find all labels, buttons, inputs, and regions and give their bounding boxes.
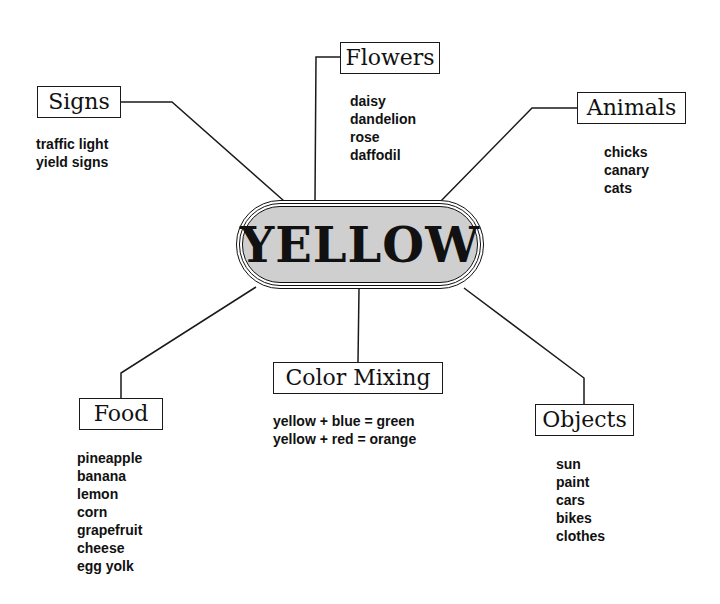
list-item: corn [77,503,142,521]
branch-flowers-title: Flowers [340,42,440,74]
branch-flowers-items: daisy dandelion rose daffodil [350,92,416,164]
list-item: yield signs [36,153,108,171]
list-item: banana [77,467,142,485]
list-item: cats [604,179,649,197]
list-item: pineapple [77,449,142,467]
list-item: dandelion [350,110,416,128]
list-item: grapefruit [77,521,142,539]
list-item: egg yolk [77,557,142,575]
center-label: YELLOW [240,217,480,273]
branch-food-items: pineapple banana lemon corn grapefruit c… [77,449,142,575]
list-item: canary [604,161,649,179]
list-item: cheese [77,539,142,557]
connector-animals [439,108,577,203]
branch-objects-title: Objects [535,404,634,436]
list-item: paint [556,473,605,491]
list-item: bikes [556,509,605,527]
branch-signs-items: traffic light yield signs [36,135,108,171]
list-item: clothes [556,527,605,545]
list-item: lemon [77,485,142,503]
connector-food [121,287,256,398]
branch-color-mixing-title: Color Mixing [273,362,443,394]
connector-color-mixing [358,289,359,362]
branch-objects-items: sun paint cars bikes clothes [556,455,605,545]
list-item: cars [556,491,605,509]
list-item: daisy [350,92,416,110]
branch-animals-title: Animals [577,92,686,124]
list-item: daffodil [350,146,416,164]
center-node: YELLOW [236,200,484,289]
list-item: sun [556,455,605,473]
list-item: traffic light [36,135,108,153]
list-item: yellow + blue = green [273,412,416,430]
connector-flowers [315,57,340,201]
branch-animals-items: chicks canary cats [604,143,649,197]
connector-signs [121,102,284,201]
list-item: rose [350,128,416,146]
branch-food-title: Food [79,398,163,430]
mind-map: YELLOW Signs traffic light yield signs F… [0,0,720,604]
branch-signs-title: Signs [37,86,121,118]
list-item: yellow + red = orange [273,430,416,448]
connector-objects [464,288,584,404]
branch-color-mixing-items: yellow + blue = green yellow + red = ora… [273,412,416,448]
list-item: chicks [604,143,649,161]
